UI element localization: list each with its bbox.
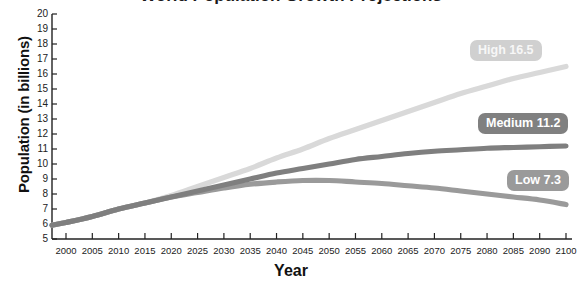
y-tick-label: 20 (26, 8, 48, 19)
y-tick-label: 17 (26, 53, 48, 64)
y-tick-label: 5 (26, 233, 48, 244)
series-line-medium (52, 146, 566, 225)
y-tick-label: 18 (26, 38, 48, 49)
series-lines (52, 67, 566, 226)
y-tick-label: 10 (26, 158, 48, 169)
population-projection-chart: World Population Growth Projections Popu… (0, 0, 582, 286)
legend-chip-medium[interactable]: Medium 11.2 (478, 113, 568, 134)
y-tick-label: 7 (26, 203, 48, 214)
y-tick-label: 15 (26, 83, 48, 94)
x-axis-ticks (66, 233, 566, 239)
y-tick-label: 12 (26, 128, 48, 139)
legend-chip-high[interactable]: High 16.5 (470, 40, 542, 61)
legend-chip-low[interactable]: Low 7.3 (507, 170, 569, 191)
y-tick-label: 19 (26, 23, 48, 34)
y-tick-label: 9 (26, 173, 48, 184)
y-tick-label: 16 (26, 68, 48, 79)
series-line-low (52, 180, 566, 225)
y-tick-label: 6 (26, 218, 48, 229)
y-tick-label: 8 (26, 188, 48, 199)
y-tick-label: 13 (26, 113, 48, 124)
y-tick-label: 11 (26, 143, 48, 154)
y-axis-ticks (52, 14, 57, 239)
x-tick-label: 2100 (549, 245, 582, 256)
y-tick-label: 14 (26, 98, 48, 109)
